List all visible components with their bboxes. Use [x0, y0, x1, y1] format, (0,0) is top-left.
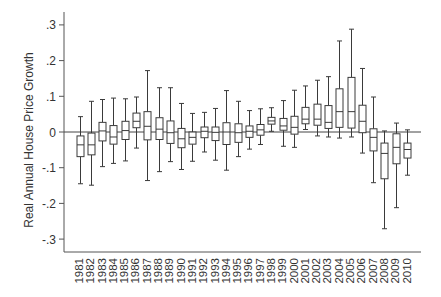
x-tick-label: 1999 — [276, 258, 288, 284]
x-tick-label: 1986 — [129, 258, 141, 284]
box-1989 — [167, 88, 174, 162]
y-tick-label: .3 — [46, 18, 56, 32]
box-2009 — [393, 123, 400, 208]
x-tick-label: 2004 — [333, 257, 345, 283]
box-1991 — [189, 113, 196, 161]
box-2006 — [359, 68, 366, 153]
box-1988 — [156, 88, 163, 172]
x-tick-label: 1983 — [96, 258, 108, 284]
box-2000 — [291, 90, 298, 147]
box-2010 — [404, 130, 411, 175]
box-1990 — [178, 103, 185, 169]
x-tick-label: 1998 — [265, 258, 277, 284]
x-tick-label: 2005 — [344, 258, 356, 284]
box-1998 — [268, 108, 275, 132]
y-tick-label: 0 — [49, 126, 56, 140]
box-1986 — [133, 97, 140, 148]
box-1997 — [257, 109, 264, 145]
box-2007 — [370, 97, 377, 183]
x-tick-label: 2001 — [299, 258, 311, 284]
x-tick-label: 1992 — [197, 258, 209, 284]
box-1999 — [280, 101, 287, 147]
x-tick-label: 2010 — [401, 258, 413, 284]
x-tick-label: 1987 — [141, 258, 153, 284]
x-tick-label: 1989 — [163, 258, 175, 284]
x-tick-label: 1981 — [73, 258, 85, 284]
box-1981 — [77, 117, 84, 184]
box-2003 — [325, 77, 332, 137]
x-tick-label: 2002 — [310, 258, 322, 284]
y-tick-label: .1 — [46, 90, 56, 104]
x-tick-label: 1997 — [254, 258, 266, 284]
x-tick-label: 1985 — [118, 258, 130, 284]
box-1996 — [246, 111, 253, 150]
x-tick-label: 1990 — [175, 258, 187, 284]
x-tick-label: 1996 — [242, 258, 254, 284]
box-series — [77, 29, 411, 229]
x-tick-label: 2008 — [378, 258, 390, 284]
y-tick-label: .2 — [46, 54, 56, 68]
y-axis-label: Real Annual House Price Growth — [22, 52, 36, 227]
x-tick-label: 2003 — [321, 258, 333, 284]
box-1984 — [110, 98, 117, 163]
x-tick-label: 2000 — [288, 258, 300, 284]
box-plot: .3.2.10-.1-.2-.3 19811982198319841985198… — [0, 0, 441, 297]
box-1993 — [212, 108, 219, 160]
x-tick-label: 1993 — [209, 258, 221, 284]
x-tick-label: 1988 — [152, 258, 164, 284]
box-2001 — [302, 86, 309, 130]
box-2005 — [348, 29, 355, 137]
box-1987 — [144, 71, 151, 181]
y-tick-label: -.2 — [42, 197, 56, 211]
box-1983 — [99, 100, 106, 167]
x-tick-label: 2009 — [389, 258, 401, 284]
box-2008 — [381, 131, 388, 229]
box-1982 — [88, 101, 95, 185]
x-tick-label: 1995 — [231, 258, 243, 284]
x-tick-label: 1984 — [107, 257, 119, 283]
box-2004 — [336, 41, 343, 138]
box-1985 — [122, 99, 129, 161]
x-axis: 1981198219831984198519861987198819891990… — [64, 252, 421, 284]
box-1995 — [235, 101, 242, 156]
x-tick-label: 2006 — [355, 258, 367, 284]
box-2002 — [314, 80, 321, 136]
y-axis: .3.2.10-.1-.2-.3 — [42, 12, 64, 252]
x-tick-label: 2007 — [367, 258, 379, 284]
x-tick-label: 1994 — [220, 257, 232, 283]
y-tick-label: -.3 — [42, 233, 56, 247]
box-1994 — [223, 91, 230, 171]
x-tick-label: 1991 — [186, 258, 198, 284]
x-tick-label: 1982 — [84, 258, 96, 284]
y-tick-label: -.1 — [42, 161, 56, 175]
box-1992 — [201, 112, 208, 152]
